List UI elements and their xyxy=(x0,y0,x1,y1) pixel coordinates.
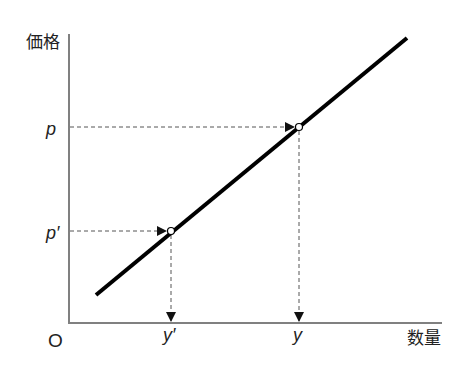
price-high-label: p xyxy=(46,120,56,138)
price-low-label: p′ xyxy=(46,224,59,242)
supply-line xyxy=(96,38,407,295)
point-high xyxy=(296,124,303,131)
qty-low-label: y′ xyxy=(163,326,175,344)
point-low xyxy=(168,228,175,235)
diagram-canvas xyxy=(0,0,472,376)
qty-high-label: y xyxy=(293,326,302,344)
y-axis-label: 価格 xyxy=(26,34,60,51)
x-axis-label: 数量 xyxy=(407,330,441,347)
origin-label: O xyxy=(48,331,63,350)
